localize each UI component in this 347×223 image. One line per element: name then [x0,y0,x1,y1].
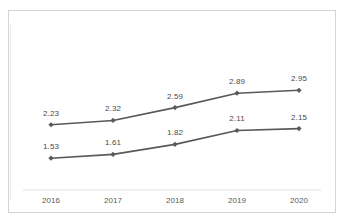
data-point-label: 1.53 [43,143,59,151]
data-point-label: 2.11 [229,115,244,123]
data-point-marker [234,128,239,133]
data-point-label: 2.59 [167,93,183,101]
plot-area: 2.232.322.592.892.951.531.611.822.112.15… [9,11,335,212]
data-point-marker [296,88,301,93]
data-point-label: 2.89 [229,78,245,86]
x-axis-tick-label: 2018 [166,197,184,205]
x-axis-tick-label: 2016 [42,197,60,205]
data-point-marker [48,122,53,127]
data-point-marker [48,156,53,161]
data-point-label: 2.15 [291,114,307,122]
data-point-label: 2.23 [43,110,59,118]
data-point-marker [234,91,239,96]
data-point-marker [296,126,301,131]
data-point-label: 1.82 [167,129,183,137]
data-point-marker [110,152,115,157]
x-axis-tick-label: 2020 [290,197,308,205]
data-point-label: 1.61 [105,139,121,147]
data-point-label: 2.95 [291,75,307,83]
data-point-label: 2.32 [105,105,121,113]
data-point-marker [172,142,177,147]
x-axis-tick-label: 2017 [104,197,122,205]
data-point-marker [172,105,177,110]
data-point-marker [110,118,115,123]
chart-container: 2.232.322.592.892.951.531.611.822.112.15… [8,10,336,213]
x-axis-tick-label: 2019 [228,197,246,205]
